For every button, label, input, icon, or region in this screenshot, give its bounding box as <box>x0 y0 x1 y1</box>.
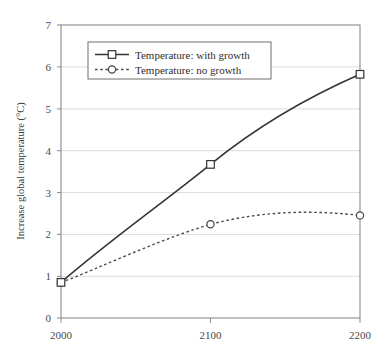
data-point-with-growth-2100 <box>207 161 215 169</box>
x-tick-label-2200: 2200 <box>349 329 372 341</box>
legend-label-no-growth: Temperature: no growth <box>135 64 242 76</box>
data-point-with-growth-2000 <box>57 279 65 287</box>
data-point-no-growth-2100 <box>207 221 214 228</box>
y-tick-label-7: 7 <box>46 19 52 31</box>
y-tick-label-1: 1 <box>46 270 52 282</box>
legend-circle-marker-icon <box>108 66 115 73</box>
y-tick-label-6: 6 <box>46 61 52 73</box>
y-tick-label-2: 2 <box>46 228 52 240</box>
y-axis-title: Increase global temperature (°C) <box>15 102 27 240</box>
legend-label-with-growth: Temperature: with growth <box>135 49 250 61</box>
y-axis-ticks <box>57 25 61 318</box>
y-tick-label-4: 4 <box>46 145 52 157</box>
data-point-no-growth-2200 <box>356 212 363 219</box>
data-point-with-growth-2200 <box>356 71 364 79</box>
y-tick-label-5: 5 <box>46 103 52 115</box>
x-axis-ticks <box>61 318 360 323</box>
line-chart: 7 6 5 4 3 2 1 0 2000 2100 2200 Increase … <box>0 0 391 362</box>
legend: Temperature: with growth Temperature: no… <box>88 42 271 79</box>
y-tick-label-3: 3 <box>46 187 52 199</box>
x-tick-label-2000: 2000 <box>50 329 73 341</box>
x-tick-label-2100: 2100 <box>200 329 223 341</box>
chart-figure: 7 6 5 4 3 2 1 0 2000 2100 2200 Increase … <box>0 0 391 362</box>
legend-square-marker-icon <box>108 51 116 59</box>
y-tick-label-0: 0 <box>46 312 52 324</box>
